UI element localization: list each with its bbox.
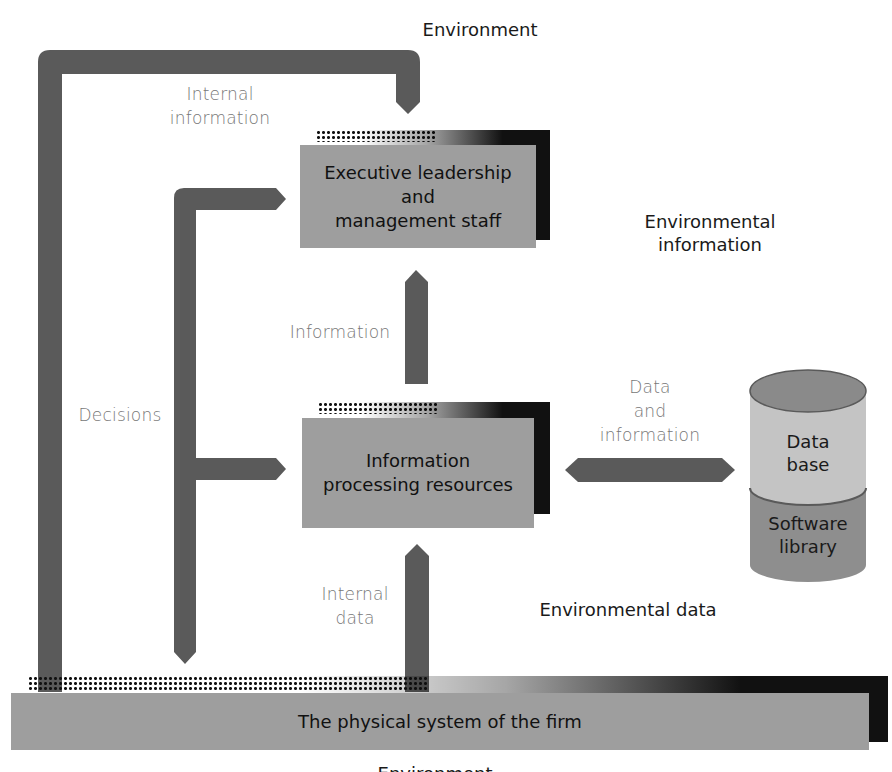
software-line-1: Software [750,512,866,535]
information-arrow [405,270,428,384]
environment-top-label: Environment [420,18,540,41]
executive-line-3: management staff [324,209,512,233]
processing-line-1: Information [323,449,513,473]
executive-line-1: Executive leadership [324,161,512,185]
internal-data-arrow [405,544,429,692]
arrows-layer [0,0,892,772]
data-information-line-2: and [580,399,720,423]
decisions-label: Decisions [70,403,170,427]
internal-information-line-2: information [160,106,280,130]
environmental-information-line-1: Environmental [620,210,800,233]
internal-data-label: Internal data [310,582,400,630]
software-line-2: library [750,535,866,558]
executive-leadership-box[interactable]: Executive leadership and management staf… [300,145,536,248]
internal-data-line-2: data [310,606,400,630]
environmental-information-line-2: information [620,233,800,256]
physical-system-label: The physical system of the firm [298,710,582,734]
internal-information-label: Internal information [160,82,280,130]
decisions-arrow [174,188,286,664]
environmental-data-label: Environmental data [528,598,728,621]
processing-line-2: processing resources [323,473,513,497]
environmental-information-label: Environmental information [620,210,800,256]
internal-information-line-1: Internal [160,82,280,106]
data-information-line-1: Data [580,375,720,399]
physical-system-bar[interactable]: The physical system of the firm [11,693,869,750]
environment-bottom-label: Environment [375,762,495,772]
database-line-1: Data [750,430,866,453]
executive-line-2: and [324,185,512,209]
data-information-arrow [565,458,735,482]
information-label: Information [280,320,400,344]
data-information-line-3: information [580,423,720,447]
database-label[interactable]: Data base [750,430,866,476]
internal-data-line-1: Internal [310,582,400,606]
database-line-2: base [750,453,866,476]
data-and-information-label: Data and information [580,375,720,447]
software-library-label[interactable]: Software library [750,512,866,558]
information-processing-box[interactable]: Information processing resources [302,418,534,528]
